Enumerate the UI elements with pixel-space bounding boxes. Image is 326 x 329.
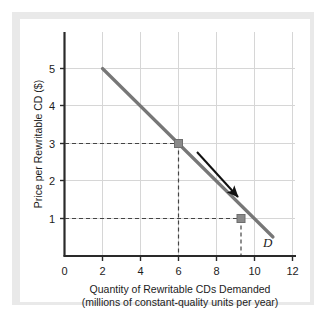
movement-arrow <box>197 152 238 197</box>
x-tick-label-0: 0 <box>61 265 67 277</box>
demand-curve-line <box>103 69 274 238</box>
x-tick-label-6: 6 <box>175 265 181 277</box>
marker-point-b <box>237 215 245 223</box>
y-tick-label-2: 2 <box>49 175 55 187</box>
y-tick-label-1: 1 <box>49 213 55 225</box>
x-tick-label-10: 10 <box>248 265 260 277</box>
y-tick-label-3: 3 <box>49 138 55 150</box>
x-axis-subtitle: (millions of constant-quality units per … <box>82 296 279 308</box>
x-axis-tick-labels: 0 2 4 6 8 10 12 <box>61 265 298 277</box>
y-axis-tick-labels: 5 4 3 2 1 <box>49 63 55 225</box>
x-tick-label-8: 8 <box>213 265 219 277</box>
marker-point-a <box>175 140 183 148</box>
y-tick-label-4: 4 <box>49 100 55 112</box>
y-axis-title: Price per Rewritable CD ($) <box>32 80 44 208</box>
x-tick-label-2: 2 <box>99 265 105 277</box>
reference-lines <box>65 144 241 256</box>
figure-root: 5 4 3 2 1 0 2 4 6 8 10 12 D Price per Re… <box>0 0 326 329</box>
demand-curve-label: D <box>262 235 273 250</box>
demand-curve-series <box>103 69 274 238</box>
x-tick-label-4: 4 <box>137 265 143 277</box>
x-axis-title: Quantity of Rewritable CDs Demanded <box>90 283 271 295</box>
demand-curve-chart: 5 4 3 2 1 0 2 4 6 8 10 12 D Price per Re… <box>0 0 326 329</box>
x-tick-label-12: 12 <box>286 265 298 277</box>
y-tick-label-5: 5 <box>49 63 55 75</box>
